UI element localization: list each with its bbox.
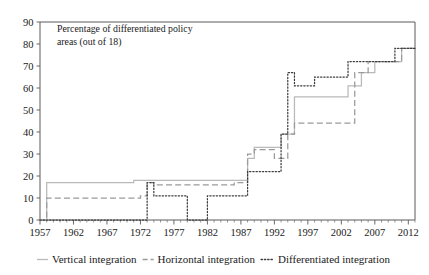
legend-label-0: Vertical integration: [52, 253, 137, 265]
x-tick-label-1987: 1987: [230, 227, 251, 238]
x-tick-label-1997: 1997: [297, 227, 318, 238]
x-tick-label-2012: 2012: [398, 227, 419, 238]
y-tick-label-0: 0: [28, 215, 33, 226]
series-layer: [40, 48, 415, 220]
x-tick-label-1992: 1992: [264, 227, 285, 238]
x-tick-label-2002: 2002: [331, 227, 352, 238]
y-tick-label-10: 10: [23, 193, 34, 204]
plot-frame: [40, 22, 415, 220]
line-chart: 0102030405060708090 19571962196719721977…: [0, 0, 429, 275]
y-tick-label-80: 80: [23, 39, 34, 50]
x-tick-label-1962: 1962: [63, 227, 84, 238]
x-axis-ticks: 1957196219671972197719821987199219972002…: [30, 220, 419, 238]
chart-title: Percentage of differentiated policy area…: [57, 23, 193, 48]
legend-item-differentiated-integration[interactable]: Differentiated integration: [261, 253, 390, 265]
y-tick-label-30: 30: [23, 149, 34, 160]
y-tick-label-70: 70: [23, 61, 34, 72]
chart-title-line-1: Percentage of differentiated policy: [57, 23, 193, 34]
x-tick-label-1977: 1977: [163, 227, 184, 238]
x-tick-label-1957: 1957: [30, 227, 51, 238]
legend-item-horizontal-integration[interactable]: Horizontal integration: [143, 253, 256, 265]
chart-container: 0102030405060708090 19571962196719721977…: [0, 0, 429, 275]
y-tick-label-50: 50: [23, 105, 34, 116]
y-axis-ticks: 0102030405060708090: [23, 17, 40, 226]
y-tick-label-60: 60: [23, 83, 34, 94]
series-line-horizontal-integration: [40, 48, 415, 220]
series-line-differentiated-integration: [40, 48, 415, 220]
chart-title-line-2: areas (out of 18): [57, 36, 121, 48]
x-tick-label-1967: 1967: [96, 227, 117, 238]
series-line-vertical-integration: [40, 48, 415, 220]
chart-legend: Vertical integrationHorizontal integrati…: [37, 253, 390, 265]
legend-label-1: Horizontal integration: [158, 253, 256, 265]
legend-label-2: Differentiated integration: [278, 253, 390, 265]
x-tick-label-2007: 2007: [364, 227, 385, 238]
x-tick-label-1982: 1982: [197, 227, 218, 238]
y-tick-label-90: 90: [23, 17, 34, 28]
legend-item-vertical-integration[interactable]: Vertical integration: [37, 253, 137, 265]
x-tick-label-1972: 1972: [130, 227, 151, 238]
plot-border: [40, 22, 415, 220]
y-tick-label-20: 20: [23, 171, 34, 182]
y-tick-label-40: 40: [23, 127, 34, 138]
